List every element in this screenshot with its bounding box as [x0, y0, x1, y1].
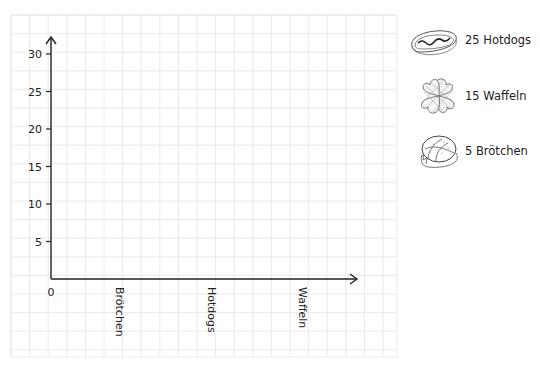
- legend-label-hotdogs: 25 Hotdogs: [465, 33, 531, 47]
- x-category-labels: BrötchenHotdogsWaffeln: [113, 287, 309, 337]
- y-tick-label-30: 30: [28, 48, 42, 61]
- legend-item-waffeln: 15 Waffeln: [406, 76, 526, 116]
- grid-paper: [11, 15, 397, 357]
- x-category-label-broetchen: Brötchen: [113, 287, 126, 337]
- hotdog-icon: [406, 20, 462, 60]
- y-tick-label-20: 20: [28, 123, 42, 136]
- legend-item-broetchen: 5 Brötchen: [406, 131, 528, 171]
- x-category-label-hotdogs: Hotdogs: [205, 287, 218, 333]
- broetchen-icon: [406, 131, 462, 171]
- waffle-icon: [406, 76, 462, 116]
- y-tick-label-5: 5: [35, 236, 42, 249]
- y-tick-label-25: 25: [28, 86, 42, 99]
- legend-label-broetchen: 5 Brötchen: [465, 144, 528, 158]
- legend-item-hotdogs: 25 Hotdogs: [406, 20, 531, 60]
- y-tick-label-10: 10: [28, 198, 42, 211]
- legend-label-waffeln: 15 Waffeln: [465, 89, 526, 103]
- x-category-label-waffeln: Waffeln: [296, 287, 309, 328]
- axes: [46, 37, 357, 284]
- y-tick-label-15: 15: [28, 161, 42, 174]
- y-tick-label-0: 0: [48, 286, 55, 299]
